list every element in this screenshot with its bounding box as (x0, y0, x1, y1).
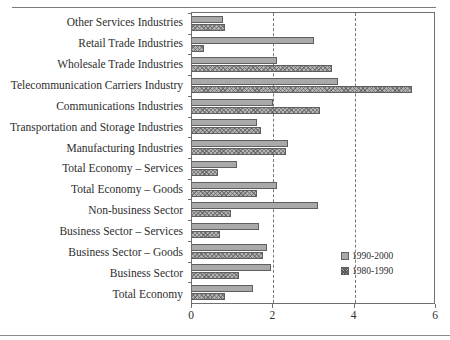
bar-series1 (192, 161, 237, 168)
bar-series2 (192, 169, 218, 176)
bar-series2 (192, 148, 286, 155)
y-axis-label: Total Economy – Services (0, 158, 188, 179)
y-axis-label: Transportation and Storage Industries (0, 116, 188, 137)
y-axis-label: Total Economy – Goods (0, 179, 188, 200)
y-axis-tick (188, 199, 192, 200)
y-axis-tick (188, 75, 192, 76)
bar-series2 (192, 107, 320, 114)
y-axis-label: Business Sector – Services (0, 221, 188, 242)
y-axis-tick (188, 282, 192, 283)
legend-swatch-icon-series1 (341, 252, 349, 260)
y-axis-tick (188, 262, 192, 263)
y-axis-tick (188, 117, 192, 118)
bar-series2 (192, 65, 332, 72)
bar-row (192, 75, 434, 96)
y-axis-label: Retail Trade Industries (0, 33, 188, 54)
y-axis-tick (188, 54, 192, 55)
bar-series1 (192, 57, 277, 64)
bar-row (192, 137, 434, 158)
bar-row (192, 54, 434, 75)
bar-row (192, 96, 434, 117)
y-axis-tick (188, 158, 192, 159)
bar-series1 (192, 244, 267, 251)
bar-row (192, 13, 434, 34)
y-axis-tick (188, 96, 192, 97)
bar-series2 (192, 272, 239, 279)
bar-series1 (192, 264, 271, 271)
bar-series2 (192, 231, 220, 238)
y-axis-labels: Other Services IndustriesRetail Trade In… (0, 12, 188, 304)
x-axis: 0246 (191, 304, 435, 326)
legend-label-series2: 1980-1990 (352, 266, 393, 276)
y-axis-label: Total Economy (0, 283, 188, 304)
x-axis-tick (191, 304, 192, 308)
x-axis-tick-label: 0 (188, 309, 194, 321)
bottom-divider-rule (0, 335, 450, 336)
bar-rows (192, 13, 434, 303)
legend-item-series2: 1980-1990 (341, 266, 393, 276)
bar-row (192, 220, 434, 241)
bar-series1 (192, 16, 223, 23)
bar-row (192, 117, 434, 138)
bar-row (192, 179, 434, 200)
bar-series1 (192, 119, 257, 126)
y-axis-tick (188, 220, 192, 221)
bar-series2 (192, 190, 257, 197)
bar-series2 (192, 252, 263, 259)
y-axis-tick (188, 34, 192, 35)
y-axis-label: Business Sector – Goods (0, 241, 188, 262)
y-axis-tick (188, 137, 192, 138)
y-axis-label: Other Services Industries (0, 12, 188, 33)
x-axis-tick-label: 4 (351, 309, 357, 321)
bar-series2 (192, 127, 261, 134)
bar-series1 (192, 285, 253, 292)
y-axis-label: Manufacturing Industries (0, 137, 188, 158)
x-axis-tick-label: 6 (432, 309, 438, 321)
y-axis-label: Business Sector (0, 262, 188, 283)
bar-series2 (192, 86, 412, 93)
y-axis-tick (188, 13, 192, 14)
x-axis-tick (272, 304, 273, 308)
x-axis-tick (354, 304, 355, 308)
bar-row (192, 262, 434, 283)
bar-series1 (192, 78, 338, 85)
legend-swatch-icon-series2 (341, 267, 349, 275)
bar-series2 (192, 293, 225, 300)
bar-series1 (192, 223, 259, 230)
bar-row (192, 241, 434, 262)
bar-series1 (192, 140, 288, 147)
bar-series1 (192, 182, 277, 189)
bar-row (192, 282, 434, 303)
bar-series2 (192, 45, 204, 52)
chart-plot-area (191, 12, 435, 304)
bar-series1 (192, 37, 314, 44)
bar-row (192, 199, 434, 220)
y-axis-label: Communications Industries (0, 95, 188, 116)
y-axis-label: Non-business Sector (0, 200, 188, 221)
y-axis-tick (188, 241, 192, 242)
legend-item-series1: 1990-2000 (341, 251, 393, 261)
y-axis-tick (188, 179, 192, 180)
bar-series1 (192, 99, 273, 106)
x-axis-tick (435, 304, 436, 308)
y-axis-label: Telecommunication Carriers Industry (0, 75, 188, 96)
y-axis-label: Wholesale Trade Industries (0, 54, 188, 75)
legend-label-series1: 1990-2000 (352, 251, 393, 261)
bar-row (192, 158, 434, 179)
bar-row (192, 34, 434, 55)
chart-legend: 1990-2000 1980-1990 (341, 251, 393, 276)
bar-series1 (192, 202, 318, 209)
x-axis-tick-label: 2 (269, 309, 275, 321)
bar-series2 (192, 210, 231, 217)
top-divider-rule (12, 7, 436, 8)
bar-series2 (192, 24, 225, 31)
